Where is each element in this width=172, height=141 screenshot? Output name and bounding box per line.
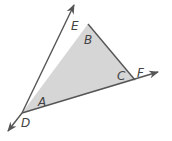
angle-label-C: C — [117, 69, 126, 83]
label-D: D — [21, 116, 30, 130]
ray-ED-extension — [8, 113, 22, 131]
angle-label-B: B — [84, 33, 92, 47]
angle-label-A: A — [37, 95, 46, 109]
label-E: E — [71, 19, 79, 33]
diagram-canvas: E F D B C A — [0, 0, 172, 141]
triangle-diagram: E F D B C A — [0, 0, 172, 141]
label-F: F — [137, 66, 145, 80]
